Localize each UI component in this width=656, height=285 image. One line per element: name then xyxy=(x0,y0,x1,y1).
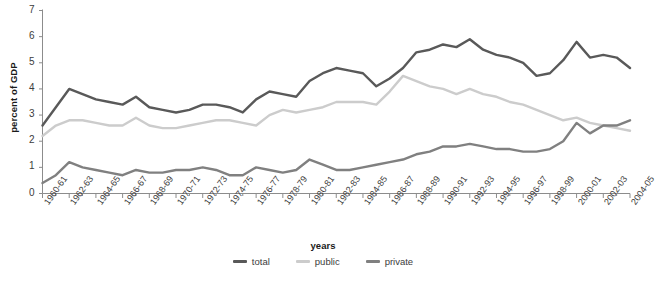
legend-label: total xyxy=(252,256,270,267)
series-line-public xyxy=(43,76,631,136)
data-series xyxy=(43,39,631,183)
legend-item-public[interactable]: public xyxy=(296,256,340,267)
y-axis-tick-label: 6 xyxy=(19,30,35,41)
y-axis-title: percent of GDP xyxy=(8,38,19,158)
y-axis-tick-label: 0 xyxy=(19,187,35,198)
y-axis-tick-label: 5 xyxy=(19,56,35,67)
x-axis-title: years xyxy=(0,240,646,251)
legend-item-total[interactable]: total xyxy=(233,256,270,267)
legend-label: private xyxy=(385,256,414,267)
y-axis-tick-label: 7 xyxy=(19,4,35,15)
y-axis-tick-label: 1 xyxy=(19,160,35,171)
y-axis-tick-label: 3 xyxy=(19,108,35,119)
legend-swatch-icon xyxy=(296,260,310,263)
legend-swatch-icon xyxy=(233,260,247,263)
y-axis-tick-label: 2 xyxy=(19,134,35,145)
y-axis-label-wrapper: percent of GDP xyxy=(0,0,20,200)
legend-swatch-icon xyxy=(366,260,380,263)
chart-legend: totalpublicprivate xyxy=(0,256,646,267)
y-axis-tick-label: 4 xyxy=(19,82,35,93)
legend-item-private[interactable]: private xyxy=(366,256,414,267)
legend-label: public xyxy=(315,256,340,267)
